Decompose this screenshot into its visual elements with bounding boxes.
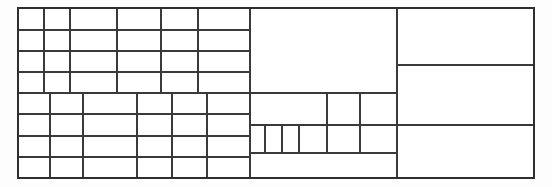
table-structure-diagram [0,0,552,187]
figure-canvas [0,0,552,187]
